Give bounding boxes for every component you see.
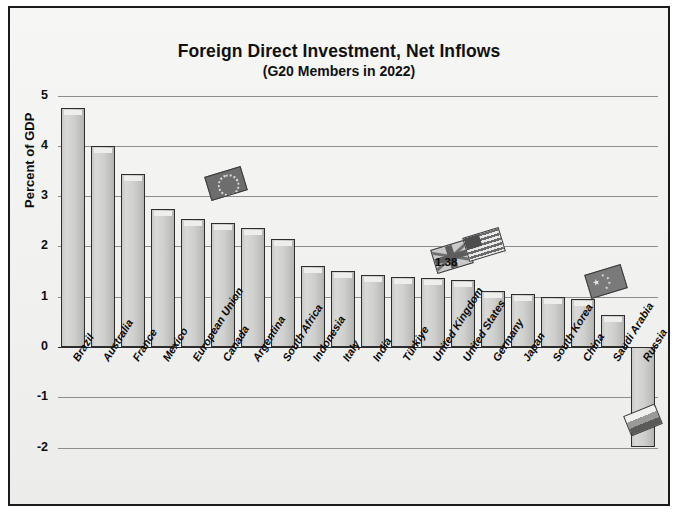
bar-highlight	[364, 277, 382, 282]
bar-highlight	[424, 280, 442, 285]
bar-highlight	[394, 279, 412, 284]
y-tick-label: -2	[18, 440, 48, 454]
y-tick-label: 1	[18, 289, 48, 303]
bar-highlight	[94, 148, 112, 153]
bar-highlight	[214, 225, 232, 230]
bar-highlight	[304, 268, 322, 273]
bar-highlight	[244, 230, 262, 235]
bar-highlight	[154, 211, 172, 216]
value-label-united-states: 1.38	[435, 256, 457, 268]
bar-highlight	[604, 317, 622, 322]
bar-highlight	[544, 299, 562, 304]
bar-mexico	[151, 209, 175, 347]
bar-series	[58, 8, 658, 504]
bar-highlight	[124, 176, 142, 181]
bar-highlight	[514, 296, 532, 301]
chart-screenshot: Foreign Direct Investment, Net Inflows (…	[0, 0, 680, 518]
y-tick-label: 4	[18, 138, 48, 152]
bar-highlight	[64, 110, 82, 115]
bar-highlight	[484, 293, 502, 298]
y-tick-label: 3	[18, 188, 48, 202]
bar-australia	[91, 146, 115, 347]
chart-frame: Foreign Direct Investment, Net Inflows (…	[8, 6, 670, 506]
y-tick-label: 2	[18, 238, 48, 252]
bar-india	[361, 275, 385, 347]
bar-highlight	[334, 273, 352, 278]
y-tick-label: 5	[18, 88, 48, 102]
bar-highlight	[184, 221, 202, 226]
bar-brazil	[61, 108, 85, 347]
y-tick-label: -1	[18, 389, 48, 403]
bar-highlight	[454, 282, 472, 287]
bar-highlight	[274, 241, 292, 246]
y-tick-label: 0	[18, 339, 48, 353]
